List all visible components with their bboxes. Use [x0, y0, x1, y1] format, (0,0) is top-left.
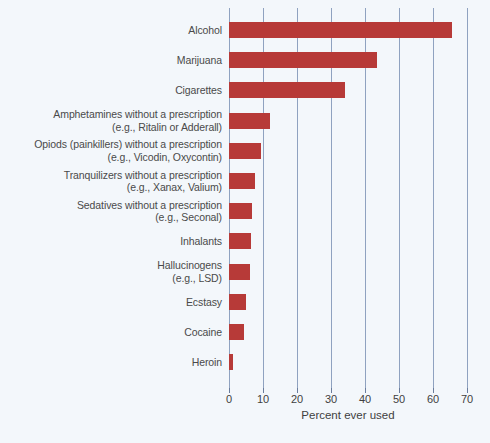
category-label: Heroin	[0, 356, 222, 368]
bar	[229, 354, 233, 370]
x-tick-label: 50	[393, 393, 405, 405]
category-axis-labels: AlcoholMarijuanaCigarettesAmphetamines w…	[0, 8, 222, 388]
bar-fill	[229, 52, 377, 68]
category-label-line: (e.g., LSD)	[0, 272, 222, 284]
category-label: Hallucinogens(e.g., LSD)	[0, 259, 222, 284]
category-label-line: Ecstasy	[0, 296, 222, 308]
category-label-line: (e.g., Ritalin or Adderall)	[0, 121, 222, 133]
category-label-line: Hallucinogens	[0, 259, 222, 271]
bar	[229, 143, 261, 159]
bar	[229, 113, 270, 129]
x-tick-label: 70	[461, 393, 473, 405]
category-label: Amphetamines without a prescription(e.g.…	[0, 108, 222, 133]
category-label: Ecstasy	[0, 296, 222, 308]
bar	[229, 264, 250, 280]
x-tick-label: 60	[427, 393, 439, 405]
category-label: Opiods (painkillers) without a prescript…	[0, 138, 222, 163]
category-label: Marijuana	[0, 54, 222, 66]
category-label: Sedatives without a prescription(e.g., S…	[0, 199, 222, 224]
bar	[229, 22, 452, 38]
bar	[229, 203, 252, 219]
x-tick-label: 20	[291, 393, 303, 405]
x-tick-label: 0	[226, 393, 232, 405]
category-label-line: Inhalants	[0, 235, 222, 247]
category-label: Tranquilizers without a prescription(e.g…	[0, 169, 222, 194]
x-axis: 010203040506070	[229, 388, 467, 398]
category-label: Inhalants	[0, 235, 222, 247]
category-label-line: Amphetamines without a prescription	[0, 108, 222, 120]
plot-area	[229, 8, 467, 388]
category-label-line: Alcohol	[0, 24, 222, 36]
x-tick-label: 40	[359, 393, 371, 405]
category-label-line: (e.g., Xanax, Valium)	[0, 181, 222, 193]
bar-fill	[229, 143, 261, 159]
bar-fill	[229, 82, 345, 98]
category-label-line: Opiods (painkillers) without a prescript…	[0, 138, 222, 150]
category-label-line: (e.g., Seconal)	[0, 211, 222, 223]
bar-chart-figure: AlcoholMarijuanaCigarettesAmphetamines w…	[0, 0, 490, 443]
category-label: Cocaine	[0, 326, 222, 338]
bar-fill	[229, 22, 452, 38]
bar-fill	[229, 264, 250, 280]
gridline-60	[433, 8, 434, 388]
x-axis-title: Percent ever used	[229, 409, 467, 421]
bar-fill	[229, 294, 246, 310]
bar	[229, 173, 255, 189]
category-label-line: (e.g., Vicodin, Oxycontin)	[0, 151, 222, 163]
category-label: Alcohol	[0, 24, 222, 36]
category-label-line: Tranquilizers without a prescription	[0, 169, 222, 181]
bar	[229, 82, 345, 98]
bar-fill	[229, 113, 270, 129]
bar-fill	[229, 233, 251, 249]
bar	[229, 324, 244, 340]
bar-fill	[229, 173, 255, 189]
category-label-line: Cocaine	[0, 326, 222, 338]
gridline-50	[399, 8, 400, 388]
category-label-line: Sedatives without a prescription	[0, 199, 222, 211]
bar	[229, 294, 246, 310]
bar-fill	[229, 324, 244, 340]
gridline-70	[467, 8, 468, 388]
category-label-line: Marijuana	[0, 54, 222, 66]
bar-fill	[229, 354, 233, 370]
x-tick-label: 10	[257, 393, 269, 405]
bar	[229, 233, 251, 249]
bar-fill	[229, 203, 252, 219]
x-tick-label: 30	[325, 393, 337, 405]
category-label-line: Heroin	[0, 356, 222, 368]
bar	[229, 52, 377, 68]
category-label-line: Cigarettes	[0, 84, 222, 96]
category-label: Cigarettes	[0, 84, 222, 96]
